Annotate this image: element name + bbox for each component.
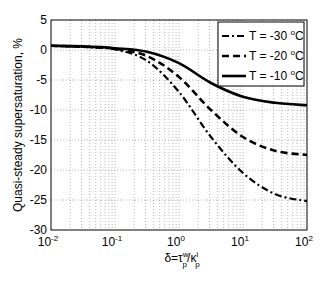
y-tick-label: 0 (40, 43, 47, 57)
y-tick-label: -25 (30, 193, 48, 207)
x-axis-ticks: 10-210-1100101102 (38, 234, 314, 249)
y-tick-label: 5 (40, 13, 47, 27)
x-tick-label: 100 (167, 234, 185, 249)
y-axis-label: Quasi-steady supersaturation, % (11, 38, 25, 212)
x-tick-label: 10-2 (38, 234, 59, 249)
x-axis-label: δ=τwp/κip (164, 250, 200, 269)
y-tick-label: -5 (36, 73, 47, 87)
legend: T = -30 oCT = -20 oCT = -10 oC (218, 22, 304, 86)
x-tick-label: 102 (295, 234, 313, 249)
y-axis-ticks: 50-5-10-15-20-25-30 (30, 13, 48, 237)
x-tick-label: 10-1 (102, 234, 123, 249)
y-tick-label: -15 (30, 133, 48, 147)
legend-label: T = -20 oC (249, 48, 304, 63)
legend-label: T = -10 oC (249, 68, 304, 83)
supersaturation-chart: 50-5-10-15-20-25-30 10-210-1100101102 T … (0, 0, 330, 284)
x-tick-label: 101 (231, 234, 249, 249)
y-tick-label: -20 (30, 163, 48, 177)
y-tick-label: -10 (30, 103, 48, 117)
legend-label: T = -30 oC (249, 28, 304, 43)
